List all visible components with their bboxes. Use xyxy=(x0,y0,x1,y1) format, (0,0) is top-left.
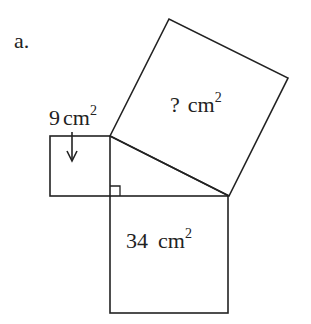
hypotenuse-square-label: ?cm2 xyxy=(170,90,222,117)
right-angle-marker xyxy=(110,186,120,196)
small-square-value: 9 xyxy=(49,105,60,130)
small-square-exponent: 2 xyxy=(90,103,97,118)
small-square-label: 9cm2 xyxy=(49,103,97,130)
small-square xyxy=(50,136,110,196)
bottom-square-label: 34cm2 xyxy=(126,226,192,253)
bottom-square-unit: cm xyxy=(158,228,185,253)
problem-label: a. xyxy=(14,28,29,53)
small-square-unit: cm xyxy=(63,105,90,130)
triangle-hypotenuse xyxy=(110,136,229,196)
bottom-square-exponent: 2 xyxy=(185,226,192,241)
hypotenuse-square-value: ? xyxy=(170,92,180,117)
pythagoras-diagram: a. 9cm2 ?cm2 34cm2 xyxy=(0,0,311,324)
bottom-square-value: 34 xyxy=(126,228,148,253)
hypotenuse-square-unit: cm xyxy=(188,92,215,117)
hypotenuse-square-exponent: 2 xyxy=(215,90,222,105)
bottom-square xyxy=(110,196,228,313)
